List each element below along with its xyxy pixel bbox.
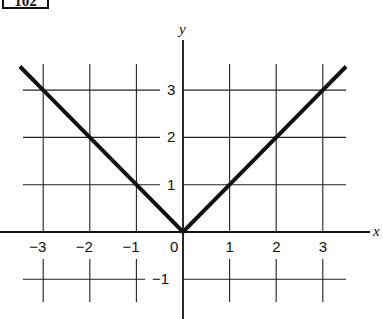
x-tick-label: 1 [226, 238, 234, 255]
x-axis-label: x [372, 223, 380, 239]
y-tick-label: 1 [167, 176, 175, 193]
graph-figure: 102 −1123−3−2−10123 x y [0, 0, 383, 319]
x-tick-label: 2 [272, 238, 280, 255]
y-tick-label: −1 [152, 270, 169, 287]
grid [23, 64, 346, 302]
y-axis-label: y [177, 21, 186, 37]
y-tick-label: 2 [167, 128, 175, 145]
x-tick-label: −2 [76, 238, 93, 255]
y-tick-label: 3 [167, 81, 175, 98]
x-tick-label: −1 [122, 238, 139, 255]
problem-number-box: 102 [2, 0, 49, 9]
axes [0, 40, 370, 319]
x-tick-label: 3 [319, 238, 327, 255]
plot-area: −1123−3−2−10123 x y [0, 0, 383, 319]
x-tick-label: −3 [29, 238, 46, 255]
x-tick-label: 0 [170, 238, 178, 255]
